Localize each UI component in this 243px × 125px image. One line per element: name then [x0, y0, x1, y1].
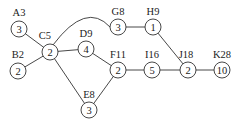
node-layer: 3A32B22C54D93E82F113G81H95I162J1810K28	[10, 6, 231, 118]
edge-c-e	[50, 52, 89, 110]
network-diagram: 3A32B22C54D93E82F113G81H95I162J1810K28	[0, 0, 243, 125]
node-value: 10	[217, 65, 228, 76]
node-label: K28	[213, 49, 231, 60]
node-i16: 5I16	[144, 49, 160, 78]
node-value: 1	[150, 22, 155, 33]
node-value: 3	[16, 24, 21, 35]
node-c5: 2C5	[39, 30, 58, 60]
node-j18: 2J18	[179, 49, 196, 78]
node-d9: 4D9	[78, 28, 94, 57]
node-k28: 10K28	[213, 49, 231, 78]
node-e8: 3E8	[81, 89, 97, 118]
node-value: 2	[115, 65, 120, 76]
node-label: H9	[147, 6, 160, 17]
node-label: F11	[110, 49, 126, 60]
node-label: B2	[12, 49, 24, 60]
node-label: E8	[83, 89, 95, 100]
node-label: A3	[13, 7, 26, 18]
node-value: 2	[47, 47, 52, 58]
node-label: I16	[145, 49, 159, 60]
node-label: J18	[179, 49, 194, 60]
node-a3: 3A3	[11, 7, 27, 37]
node-value: 5	[149, 65, 154, 76]
node-label: D9	[80, 28, 93, 39]
node-f11: 2F11	[110, 49, 126, 78]
node-value: 3	[115, 22, 120, 33]
node-value: 2	[185, 65, 190, 76]
node-b2: 2B2	[10, 49, 26, 79]
node-h9: 1H9	[145, 6, 161, 35]
node-label: G8	[112, 6, 125, 17]
node-value: 4	[83, 44, 89, 55]
node-label: C5	[39, 30, 51, 41]
node-value: 3	[86, 105, 91, 116]
node-g8: 3G8	[110, 6, 126, 35]
node-value: 2	[15, 66, 20, 77]
